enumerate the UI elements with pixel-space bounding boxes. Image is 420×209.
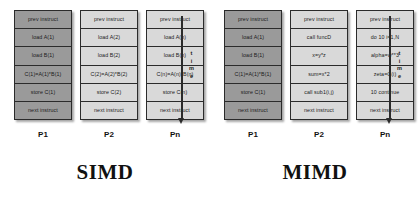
processor-label-p2: P2 <box>80 130 138 139</box>
instruction-cell: prev instruct <box>80 10 138 29</box>
simd-time-label: t i m e <box>189 50 194 80</box>
simd-processor-column-p1: prev instruct load A(1) load B(1) C(1)=A… <box>14 10 72 120</box>
simd-group: prev instruct load A(1) load B(1) C(1)=A… <box>0 0 210 209</box>
processor-label-p1: P1 <box>14 130 72 139</box>
time-label-char: i <box>399 58 401 66</box>
mimd-processor-column-p1: prev instruct load A(1) load B(1) C(1)=A… <box>224 10 282 120</box>
time-label-char: m <box>397 65 402 73</box>
time-label-char: e <box>398 73 401 81</box>
instruction-cell: load B(1) <box>14 46 72 65</box>
mimd-time-label: t i m e <box>397 50 402 80</box>
time-arrow-line <box>389 16 391 120</box>
instruction-cell: store C(2) <box>80 83 138 102</box>
mimd-group: prev instruct load A(1) load B(1) C(1)=A… <box>210 0 420 209</box>
instruction-cell: load B(1) <box>224 46 282 65</box>
instruction-cell: store C(1) <box>14 83 72 102</box>
time-label-char: m <box>189 65 194 73</box>
mimd-time-arrow: t i m e <box>386 16 408 128</box>
mimd-processor-labels: P1 P2 Pn <box>224 130 414 139</box>
simd-columns: prev instruct load A(1) load B(1) C(1)=A… <box>14 10 204 120</box>
simd-processor-labels: P1 P2 Pn <box>14 130 204 139</box>
instruction-cell: store C(1) <box>224 83 282 102</box>
simd-time-arrow: t i m e <box>178 16 200 128</box>
simd-title: SIMD <box>0 160 210 185</box>
processor-label-pn: Pn <box>146 130 204 139</box>
instruction-cell: load B(2) <box>80 46 138 65</box>
instruction-cell: call funcD <box>290 28 348 47</box>
instruction-cell: sum=x*2 <box>290 65 348 84</box>
mimd-title: MIMD <box>210 160 420 185</box>
simd-diagram-area: prev instruct load A(1) load B(1) C(1)=A… <box>0 10 210 145</box>
instruction-cell: next instruct <box>80 101 138 120</box>
processor-label-p2: P2 <box>290 130 348 139</box>
time-arrow-head-icon <box>386 118 392 124</box>
instruction-cell: load A(2) <box>80 28 138 47</box>
instruction-cell: prev instruct <box>224 10 282 29</box>
time-label-char: t <box>191 50 193 58</box>
time-label-char: t <box>399 50 401 58</box>
simd-processor-column-p2: prev instruct load A(2) load B(2) C(2)=A… <box>80 10 138 120</box>
instruction-cell: C(2)=A(2)*B(2) <box>80 65 138 84</box>
time-label-char: e <box>190 73 193 81</box>
instruction-cell: x=y*z <box>290 46 348 65</box>
mimd-diagram-area: prev instruct load A(1) load B(1) C(1)=A… <box>210 10 420 145</box>
instruction-cell: load A(1) <box>224 28 282 47</box>
instruction-cell: next instruct <box>290 101 348 120</box>
instruction-cell: prev instruct <box>290 10 348 29</box>
time-arrow-line <box>181 16 183 120</box>
instruction-cell: prev instruct <box>14 10 72 29</box>
instruction-cell: C(1)=A(1)*B(1) <box>224 65 282 84</box>
instruction-cell: next instruct <box>14 101 72 120</box>
instruction-cell: next instruct <box>224 101 282 120</box>
mimd-processor-column-p2: prev instruct call funcD x=y*z sum=x*2 c… <box>290 10 348 120</box>
processor-label-pn: Pn <box>356 130 414 139</box>
instruction-cell: load A(1) <box>14 28 72 47</box>
time-arrow-head-icon <box>178 118 184 124</box>
processor-label-p1: P1 <box>224 130 282 139</box>
instruction-cell: C(1)=A(1)*B(1) <box>14 65 72 84</box>
diagram-canvas: prev instruct load A(1) load B(1) C(1)=A… <box>0 0 420 209</box>
time-label-char: i <box>191 58 193 66</box>
instruction-cell: call sub1(i,j) <box>290 83 348 102</box>
